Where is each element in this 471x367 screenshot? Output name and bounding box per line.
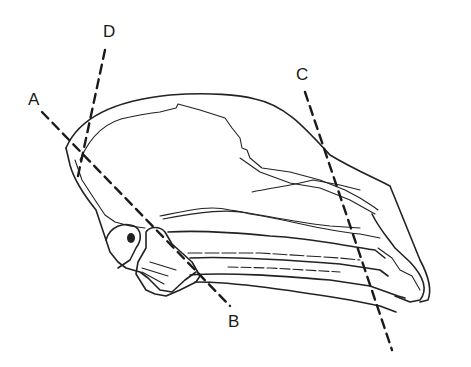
jaw-bar-dashed-2 — [228, 267, 340, 272]
label-d: D — [103, 23, 115, 40]
skull-outline-dorsal — [66, 94, 430, 302]
label-a: A — [28, 91, 39, 108]
label-b: B — [228, 313, 239, 330]
jaw-bar-lower — [195, 282, 396, 312]
occipital-outline — [66, 148, 196, 292]
label-c: C — [296, 66, 308, 83]
foramen-dot — [127, 233, 135, 243]
tympanic-block — [136, 228, 200, 297]
snout-detail — [378, 248, 420, 290]
cut-line-c — [305, 92, 392, 350]
skull-ridge-1 — [160, 208, 360, 228]
tympanic-striations — [142, 262, 176, 284]
occipital-inner — [75, 160, 145, 228]
condyle — [106, 225, 140, 268]
skull-ridge-2 — [163, 211, 380, 238]
skull-diagram: A B C D — [0, 0, 471, 367]
